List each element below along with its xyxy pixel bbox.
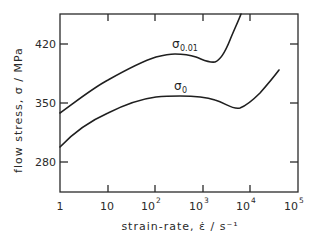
chart-canvas: 420 350 280 1 10 10 2 10 3 10 4 10 5 str… [0, 0, 322, 244]
svg-text:5: 5 [299, 196, 304, 205]
curve-sigma-0 [60, 70, 279, 147]
y-tick-label-420: 420 [35, 38, 56, 51]
x-tick-label-10: 10 [100, 200, 114, 213]
x-axis-title: strain-rate, ε̇ / s⁻¹ [121, 220, 238, 233]
x-tick-label-1e3: 10 3 [189, 196, 209, 213]
x-tick-label-1: 1 [57, 200, 64, 213]
curve-label-sigma-0: σ 0 [174, 79, 187, 95]
svg-text:10: 10 [189, 200, 203, 213]
y-axis-ticks-right [290, 44, 298, 162]
x-tick-label-1e4: 10 4 [236, 196, 256, 213]
svg-text:10: 10 [141, 200, 155, 213]
y-tick-label-350: 350 [35, 97, 56, 110]
y-axis-ticks-left [60, 44, 68, 162]
svg-text:3: 3 [204, 196, 209, 205]
svg-text:σ: σ [172, 37, 180, 51]
svg-text:0.01: 0.01 [180, 44, 198, 53]
x-tick-label-1e5: 10 5 [284, 196, 304, 213]
svg-text:10: 10 [284, 200, 298, 213]
svg-text:4: 4 [251, 196, 256, 205]
svg-text:σ: σ [174, 79, 182, 93]
curve-label-sigma-0-01: σ 0.01 [172, 37, 198, 53]
svg-text:0: 0 [182, 86, 187, 95]
x-tick-label-1e2: 10 2 [141, 196, 161, 213]
svg-text:10: 10 [236, 200, 250, 213]
x-axis-ticks-bottom [108, 185, 250, 192]
y-axis-title: flow stress, σ / MPa [12, 47, 25, 173]
svg-text:2: 2 [156, 196, 161, 205]
x-axis-ticks-top [108, 14, 250, 21]
y-tick-label-280: 280 [35, 156, 56, 169]
